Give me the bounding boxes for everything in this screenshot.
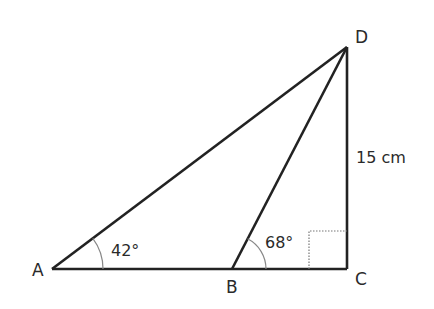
segment-AD xyxy=(52,47,347,269)
label-D: D xyxy=(355,27,368,47)
right-angle-marker-C xyxy=(309,231,347,269)
label-A: A xyxy=(32,260,44,280)
angle-arc-A xyxy=(93,238,103,269)
label-B: B xyxy=(226,277,238,297)
triangle-diagram: A B C D 42° 68° 15 cm xyxy=(0,0,434,309)
angle-label-B: 68° xyxy=(265,233,293,252)
angle-arc-B xyxy=(248,239,266,269)
length-label-CD: 15 cm xyxy=(356,148,406,167)
label-C: C xyxy=(355,269,367,289)
angle-label-A: 42° xyxy=(111,241,139,260)
